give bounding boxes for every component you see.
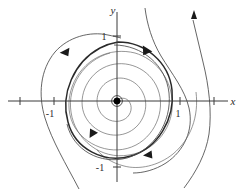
x-tick-label-neg-one: -1	[46, 108, 54, 119]
y-tick-label-pos-one: 1	[102, 31, 107, 42]
flow-arrow-upper-left	[60, 48, 73, 59]
y-tick-label-neg-one: -1	[96, 162, 104, 173]
flow-arrow-lower-right	[143, 151, 153, 160]
y-axis-label: y	[110, 4, 116, 16]
x-tick-label-pos-one: 1	[176, 108, 181, 119]
phase-portrait-canvas: x y -1 1 1 -1	[0, 0, 247, 189]
x-axis-label: x	[230, 95, 236, 107]
phase-portrait-figure: x y -1 1 1 -1	[0, 0, 247, 189]
equilibrium-point	[114, 98, 120, 104]
flow-arrow-far-right	[191, 10, 197, 19]
flow-arrow-lower-left	[85, 128, 98, 141]
